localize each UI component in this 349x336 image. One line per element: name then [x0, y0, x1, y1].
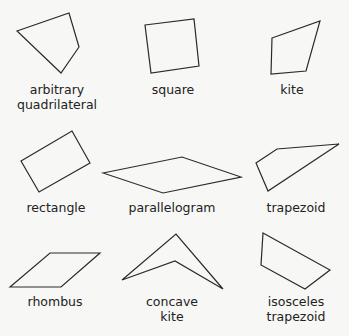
label-parallelogram: parallelogram — [117, 200, 227, 215]
label-isosceles-trapezoid: isosceles trapezoid — [241, 294, 349, 324]
shape-parallelogram — [103, 157, 241, 193]
shape-kite — [271, 21, 320, 74]
shape-square — [145, 19, 199, 73]
shape-concave-kite — [122, 234, 223, 289]
shape-rectangle — [21, 131, 90, 192]
shape-arbitrary-quadrilateral — [17, 13, 79, 73]
shape-trapezoid — [256, 144, 339, 191]
label-square: square — [118, 82, 228, 97]
label-concave-kite: concave kite — [117, 294, 227, 324]
label-kite: kite — [237, 82, 347, 97]
quadrilaterals-figure: arbitrary quadrilateral square kite rect… — [0, 0, 349, 336]
label-rhombus: rhombus — [0, 294, 110, 309]
label-trapezoid: trapezoid — [241, 200, 349, 215]
label-rectangle: rectangle — [1, 200, 111, 215]
label-arbitrary-quadrilateral: arbitrary quadrilateral — [2, 82, 112, 112]
shape-rhombus — [10, 253, 100, 287]
shape-isosceles-trapezoid — [261, 233, 330, 289]
shapes-canvas — [0, 0, 349, 336]
